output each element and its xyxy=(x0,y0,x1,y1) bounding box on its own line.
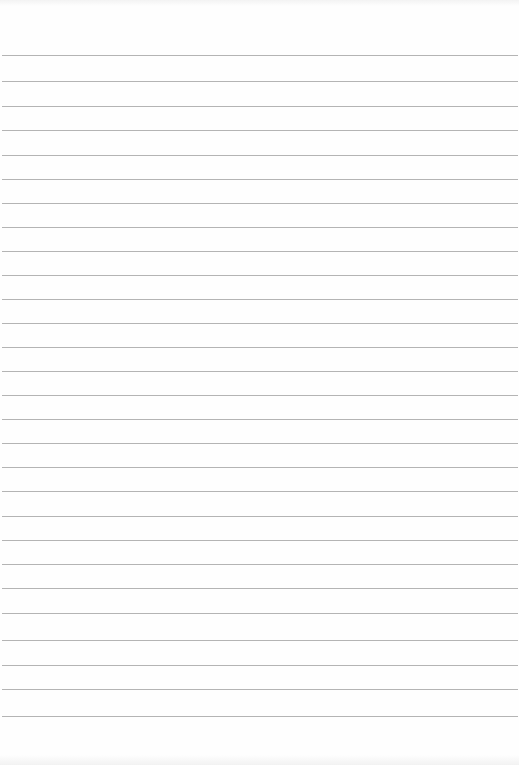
ruled-line xyxy=(2,516,518,517)
ruled-line xyxy=(2,588,518,589)
ruled-line xyxy=(2,251,518,252)
ruled-line xyxy=(2,275,518,276)
ruled-line xyxy=(2,491,518,492)
ruled-line xyxy=(2,540,518,541)
ruled-line xyxy=(2,347,518,348)
ruled-line xyxy=(2,106,518,107)
ruled-line xyxy=(2,155,518,156)
ruled-line xyxy=(2,203,518,204)
ruled-line xyxy=(2,689,518,690)
ruled-line xyxy=(2,130,518,131)
ruled-line xyxy=(2,179,518,180)
ruled-line xyxy=(2,419,518,420)
ruled-line xyxy=(2,665,518,666)
ruled-line xyxy=(2,613,518,614)
lined-paper xyxy=(0,0,519,765)
ruled-line xyxy=(2,564,518,565)
ruled-line xyxy=(2,299,518,300)
ruled-line xyxy=(2,443,518,444)
ruled-line xyxy=(2,640,518,641)
ruled-line xyxy=(2,467,518,468)
ruled-line xyxy=(2,716,518,717)
ruled-line xyxy=(2,395,518,396)
ruled-line xyxy=(2,81,518,82)
ruled-line xyxy=(2,227,518,228)
ruled-line xyxy=(2,323,518,324)
ruled-line xyxy=(2,371,518,372)
ruled-line xyxy=(2,55,518,56)
